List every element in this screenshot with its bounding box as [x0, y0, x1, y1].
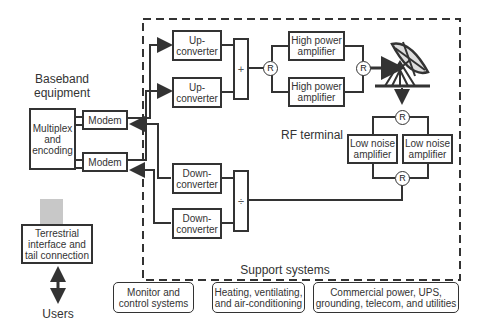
hpa-1: High power amplifier	[288, 31, 345, 61]
redundancy-switch-1: R	[263, 61, 278, 76]
terrestrial-interface-box: Terrestrial interface and tail connectio…	[21, 224, 93, 264]
down-converter-1: Down- converter	[172, 163, 222, 194]
hpa-2: High power amplifier	[288, 77, 345, 107]
up-converter-1: Up- converter	[172, 30, 222, 61]
redundancy-switch-2: R	[356, 61, 371, 76]
up-converter-2: Up- converter	[172, 77, 222, 108]
lna-2: Low noise amplifier	[402, 134, 453, 164]
support-hvac: Heating, ventilating, and air-conditioni…	[212, 282, 305, 313]
dish-antenna-icon	[375, 42, 430, 86]
bidirectional-arrow-icon	[50, 266, 66, 304]
redundancy-switch-3: R	[395, 110, 410, 125]
rf-terminal-title: RF terminal	[272, 128, 352, 142]
down-converter-2: Down- converter	[172, 208, 222, 239]
modem-2: Modem	[82, 152, 128, 172]
redundancy-switch-4: R	[395, 171, 410, 186]
divider: ÷	[233, 170, 249, 232]
support-power-utilities: Commercial power, UPS, grounding, teleco…	[313, 282, 459, 313]
support-monitor-control: Monitor and control systems	[113, 282, 194, 313]
users-label: Users	[33, 307, 83, 321]
support-systems-title: Support systems	[225, 263, 345, 277]
baseband-title: Baseband equipment	[22, 72, 102, 100]
multiplex-encoding-box: Multiplex and encoding	[29, 108, 76, 170]
modem-1: Modem	[82, 110, 128, 130]
combiner: +	[233, 38, 249, 100]
lna-1: Low noise amplifier	[347, 134, 398, 164]
